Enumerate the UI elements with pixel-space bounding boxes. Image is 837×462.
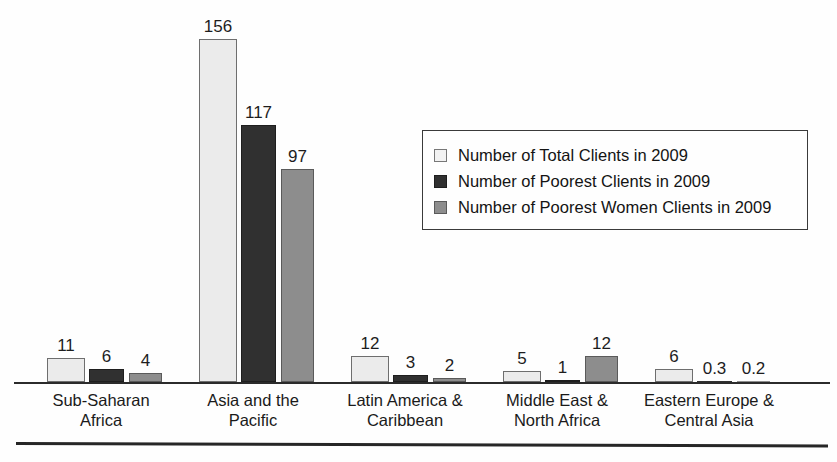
bar-series-2-group-2 — [433, 378, 466, 382]
bar-series-1-group-3 — [545, 380, 580, 382]
legend-item-poorest-clients: Number of Poorest Clients in 2009 — [434, 168, 807, 194]
plot-area: 1115612566117310.34972120.2 Sub-SaharanA… — [0, 0, 837, 462]
legend-label-poorest-women-clients: Number of Poorest Women Clients in 2009 — [458, 198, 771, 216]
legend-item-total-clients: Number of Total Clients in 2009 — [434, 142, 807, 168]
bar-value-label-series-0-group-1: 156 — [188, 18, 248, 36]
legend-swatch-icon-total-clients — [434, 149, 447, 162]
bar-series-1-group-4 — [697, 381, 732, 382]
bar-series-2-group-0 — [129, 373, 162, 382]
bar-value-label-series-1-group-1: 117 — [229, 104, 289, 122]
bar-series-1-group-0 — [89, 369, 124, 382]
category-label-4-line-0: Eastern Europe & — [619, 390, 799, 410]
chart-legend: Number of Total Clients in 2009 Number o… — [422, 130, 808, 230]
bar-series-2-group-4 — [737, 381, 770, 382]
bar-series-2-group-3 — [585, 356, 618, 382]
bar-value-label-series-2-group-0: 4 — [116, 352, 176, 370]
bar-value-label-series-2-group-2: 2 — [420, 357, 480, 375]
legend-swatch-icon-poorest-clients — [434, 175, 447, 188]
legend-swatch-icon-poorest-women-clients — [434, 201, 447, 214]
bar-value-label-series-2-group-1: 97 — [268, 148, 328, 166]
category-label-4: Eastern Europe &Central Asia — [619, 390, 799, 430]
legend-label-poorest-clients: Number of Poorest Clients in 2009 — [458, 172, 710, 190]
bottom-divider-rule — [16, 442, 828, 448]
bar-value-label-series-0-group-2: 12 — [340, 335, 400, 353]
x-axis-line — [14, 382, 830, 384]
legend-label-total-clients: Number of Total Clients in 2009 — [458, 146, 688, 164]
legend-item-poorest-women-clients: Number of Poorest Women Clients in 2009 — [434, 194, 807, 220]
bar-value-label-series-2-group-3: 12 — [572, 335, 632, 353]
bar-series-1-group-2 — [393, 375, 428, 382]
bar-value-label-series-1-group-3: 1 — [533, 359, 593, 377]
bar-chart: 1115612566117310.34972120.2 Sub-SaharanA… — [0, 0, 837, 462]
bar-value-label-series-2-group-4: 0.2 — [724, 360, 784, 378]
bar-series-2-group-1 — [281, 169, 314, 382]
bar-series-0-group-1 — [199, 39, 237, 382]
category-label-4-line-1: Central Asia — [619, 410, 799, 430]
